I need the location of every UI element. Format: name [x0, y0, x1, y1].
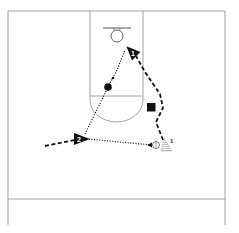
movement-lines	[45, 50, 163, 148]
player-2-marker: 2	[74, 133, 90, 145]
court	[8, 11, 225, 225]
cut-path-player-1	[136, 56, 163, 140]
player-2-label: 2	[77, 136, 81, 143]
hoop	[111, 30, 123, 42]
cut-path-player-2	[45, 140, 75, 146]
defender-square	[147, 103, 156, 112]
free-throw-circle	[90, 96, 143, 122]
pass-line-2-to-1	[85, 50, 125, 134]
pass-arrowhead	[147, 143, 152, 148]
defender-circle	[104, 83, 112, 91]
pass-line-coach-to-2	[88, 139, 152, 145]
coach-label: 1	[170, 138, 174, 144]
coach-marker: 1	[153, 138, 175, 151]
player-1-label: 1	[131, 50, 135, 57]
play-diagram: 1 2 1	[0, 0, 239, 233]
